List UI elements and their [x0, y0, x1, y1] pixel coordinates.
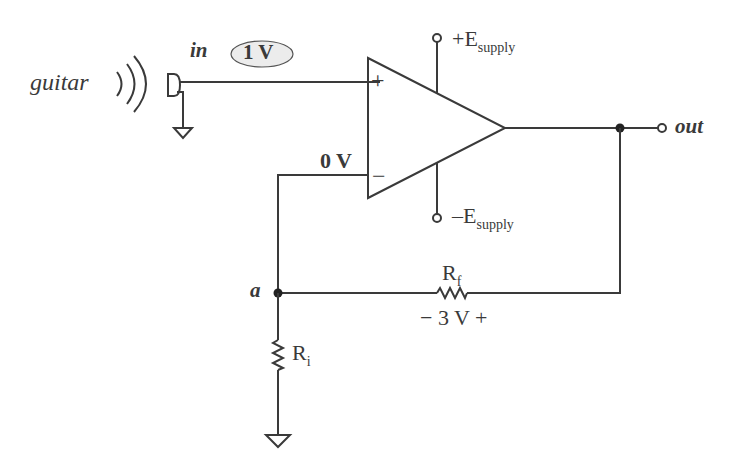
ri-label: Ri [292, 342, 311, 364]
differential-voltage-label: 0 V [320, 150, 352, 172]
output-terminal [658, 124, 666, 132]
input-label: in [190, 40, 208, 61]
rf-voltage-label: − 3 V + [420, 307, 487, 329]
jack-ground-wire [177, 92, 183, 128]
supply-pos-label: +Esupply [452, 28, 515, 50]
minus-input-label: − [372, 164, 386, 188]
plus-input-label: + [371, 68, 385, 92]
supply-neg-terminal [433, 214, 441, 222]
supply-neg-label: –Esupply [452, 205, 514, 227]
ground-icon-ri [266, 435, 290, 447]
input-voltage-badge: 1 V [243, 42, 274, 63]
sound-wave-large [134, 56, 146, 112]
sound-wave-mid [127, 64, 135, 104]
node-a-label: a [250, 280, 261, 301]
guitar-label: guitar [30, 70, 89, 94]
rf-resistor-icon [437, 288, 467, 298]
output-label: out [675, 116, 703, 137]
ri-resistor-icon [273, 340, 283, 370]
rf-label: Rf [442, 262, 461, 284]
feedback-wire-left [278, 175, 437, 293]
supply-pos-terminal [433, 34, 441, 42]
sound-wave-small [117, 72, 122, 96]
ground-icon-input [174, 128, 192, 138]
